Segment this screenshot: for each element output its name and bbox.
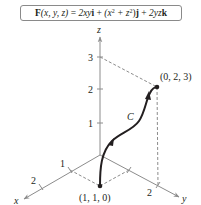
- end-point-label: (0, 2, 3): [160, 71, 192, 83]
- curve-direction-arrow-icon: [108, 138, 114, 146]
- x-axis-label: x: [13, 195, 19, 205]
- x-tick-label-1: 1: [60, 158, 65, 169]
- x-tick-label-2: 2: [31, 175, 36, 186]
- 3d-curve-diagram: z x y 1 2 3 1 2 2 C (1, 1, 0) (0, 2, 3): [0, 0, 201, 205]
- y-axis-label: y: [181, 193, 187, 204]
- curve-label: C: [127, 111, 134, 122]
- x-ticks: [39, 167, 72, 190]
- z-tick-label-2: 2: [88, 84, 93, 95]
- start-point-label: (1, 1, 0): [79, 192, 111, 204]
- start-point-marker: [98, 184, 103, 189]
- z-tick-label-1: 1: [88, 118, 93, 129]
- z-tick-label-3: 3: [88, 52, 93, 63]
- z-axis-label: z: [96, 24, 101, 35]
- y-tick-label-2: 2: [147, 187, 152, 198]
- dashed-guides: [70, 57, 158, 186]
- end-point-marker: [155, 85, 160, 90]
- y-ticks: [127, 167, 160, 188]
- y-axis: [100, 155, 179, 197]
